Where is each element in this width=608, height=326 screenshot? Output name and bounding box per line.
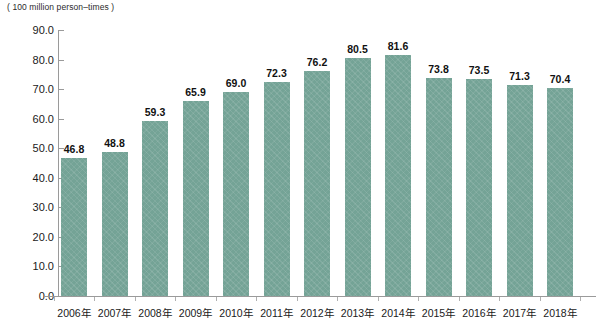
x-axis-tick-mark [256, 297, 257, 301]
bar-value-label: 59.3 [145, 106, 165, 118]
bar-value-label: 48.8 [104, 137, 124, 149]
x-axis-tick-label: 2018年 [536, 305, 584, 320]
bar[interactable] [102, 152, 128, 296]
bar-chart: ( 100 million person–times ) 0.010.020.0… [0, 0, 608, 326]
bar-column[interactable]: 69.0 [223, 92, 249, 296]
bar-value-label: 76.2 [307, 56, 327, 68]
x-axis-tick-mark [94, 297, 95, 301]
bar-column[interactable]: 48.8 [102, 152, 128, 296]
bar-value-label: 80.5 [347, 43, 367, 55]
bar[interactable] [426, 78, 452, 296]
x-axis-tick-mark [459, 297, 460, 301]
bar-column[interactable]: 81.6 [385, 55, 411, 296]
x-axis-tick-mark [175, 297, 176, 301]
bar-column[interactable]: 72.3 [264, 82, 290, 296]
bar-value-label: 81.6 [388, 40, 408, 52]
bar-column[interactable]: 65.9 [183, 101, 209, 296]
x-axis-tick-mark [378, 297, 379, 301]
x-axis-tick-mark [216, 297, 217, 301]
bar-value-label: 46.8 [64, 143, 84, 155]
bar-value-label: 73.5 [469, 64, 489, 76]
x-axis-tick-mark [297, 297, 298, 301]
x-axis-tick-mark [135, 297, 136, 301]
bar[interactable] [61, 158, 87, 296]
bar[interactable] [304, 71, 330, 296]
bar-column[interactable]: 71.3 [507, 85, 533, 296]
x-axis-tick-mark [540, 297, 541, 301]
bar-value-label: 72.3 [266, 67, 286, 79]
bars-layer: 46.82006年48.82007年59.32008年65.92009年69.0… [0, 0, 608, 326]
bar-column[interactable]: 80.5 [345, 58, 371, 296]
bar[interactable] [264, 82, 290, 296]
bar-column[interactable]: 70.4 [547, 88, 573, 296]
bar[interactable] [507, 85, 533, 296]
bar[interactable] [223, 92, 249, 296]
bar[interactable] [547, 88, 573, 296]
bar-column[interactable]: 76.2 [304, 71, 330, 296]
bar-column[interactable]: 73.5 [466, 79, 492, 296]
x-axis-tick-mark [499, 297, 500, 301]
bar[interactable] [345, 58, 371, 296]
bar[interactable] [183, 101, 209, 296]
bar-value-label: 69.0 [226, 77, 246, 89]
x-axis-tick-mark [418, 297, 419, 301]
bar-value-label: 65.9 [185, 86, 205, 98]
bar-column[interactable]: 46.8 [61, 158, 87, 296]
bar[interactable] [466, 79, 492, 296]
bar-value-label: 73.8 [428, 63, 448, 75]
bar-value-label: 70.4 [550, 73, 570, 85]
bar-column[interactable]: 73.8 [426, 78, 452, 296]
bar-column[interactable]: 59.3 [142, 121, 168, 296]
bar-value-label: 71.3 [509, 70, 529, 82]
x-axis-tick-mark [54, 297, 55, 301]
bar[interactable] [385, 55, 411, 296]
bar[interactable] [142, 121, 168, 296]
x-axis-tick-mark [337, 297, 338, 301]
x-axis-tick-mark [580, 297, 581, 301]
